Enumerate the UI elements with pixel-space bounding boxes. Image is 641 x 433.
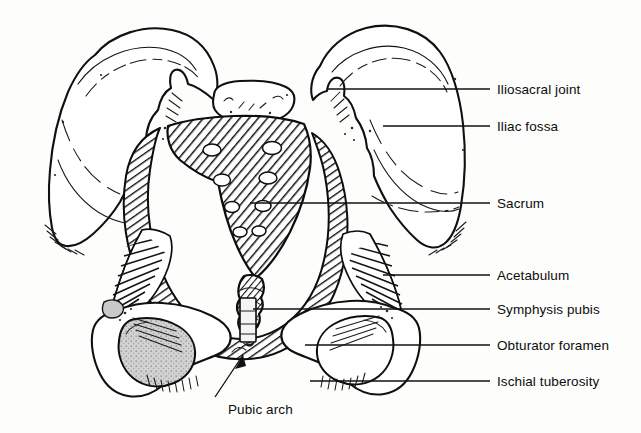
label-sacrum: Sacrum [497,196,544,211]
label-iliac-fossa: Iliac fossa [497,119,559,134]
sacral-foramen-4R [252,226,266,236]
right-notch-speck-2 [344,133,346,135]
sacral-foramen-1L [203,144,221,156]
sacrum-outline [168,116,311,278]
right-ilium-speck-2 [369,130,371,132]
right-ilium-speck-3 [462,149,464,151]
right-ramus-speck-1 [386,310,389,313]
left-ramus-speck-2 [130,308,132,310]
left-notch-speck-3 [162,138,164,140]
label-acetabulum: Acetabulum [497,268,569,283]
label-symphysis-pubis: Symphysis pubis [497,302,600,317]
pelvis-diagram: Iliosacral joint Iliac fossa Sacrum Acet… [0,0,641,433]
left-ilium-speck-3 [54,174,56,176]
left-notch-speck-1 [164,127,167,130]
symphysis-pubis-block [240,298,256,342]
left-ilium-speck-2 [100,74,102,76]
label-iliosacral-joint: Iliosacral joint [497,82,581,97]
right-ramus-speck-2 [380,306,382,308]
label-pubic-arch: Pubic arch [228,402,293,417]
sacral-foramen-2R [259,172,277,184]
right-ramus-speck-3 [391,317,393,319]
right-notch-speck-3 [353,139,355,141]
sacral-foramen-3R [255,201,271,212]
left-ramus-speck-1 [124,312,127,315]
left-ramus-speck-3 [119,319,121,321]
sacral-foramen-2L [214,174,231,186]
sacral-foramen-4L [233,227,247,237]
pelvis-illustration: Iliosacral joint Iliac fossa Sacrum Acet… [0,0,641,433]
right-notch-speck-1 [351,127,354,130]
left-ilium-speck-1 [62,121,64,123]
sacral-foramen-1R [263,142,282,155]
label-obturator-foramen: Obturator foramen [497,338,609,353]
left-acetabular-notch-nub [102,300,123,318]
left-ilium-notch-hatch [166,93,182,122]
sacral-foramen-3L [225,202,240,213]
label-ischial-tuberosity: Ischial tuberosity [497,374,599,389]
right-ilium-speck-1 [454,78,456,80]
